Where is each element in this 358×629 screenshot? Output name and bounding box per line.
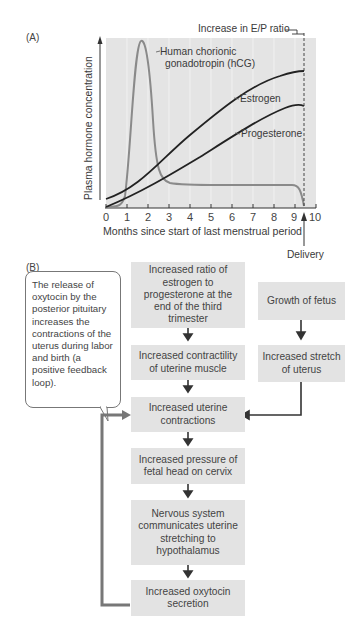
arrow-down-icon: [184, 439, 192, 445]
box-contractions: Increased uterine contractions: [131, 397, 245, 432]
arrow-down-icon: [184, 571, 192, 577]
arrow-down-icon: [297, 332, 305, 339]
arrow-down-icon: [184, 334, 192, 340]
box-contractility: Increased contractility of uterine muscl…: [131, 345, 245, 380]
arrow-down-icon: [184, 386, 192, 392]
box-stretch: Increased stretch of uterus: [258, 345, 345, 382]
box-ratio: Increased ratio of estrogen to progester…: [131, 262, 245, 328]
feedback-loop-arrow: [102, 415, 130, 605]
box-nervous: Nervous system communicates uterine stre…: [131, 500, 245, 565]
box-oxytocin: Increased oxytocin secretion: [131, 580, 245, 616]
feedback-arrow-icon: [122, 410, 131, 420]
arrow-down-icon: [184, 491, 192, 497]
box-growth: Growth of fetus: [258, 282, 345, 320]
box-pressure: Increased pressure of fetal head on cerv…: [131, 448, 245, 484]
